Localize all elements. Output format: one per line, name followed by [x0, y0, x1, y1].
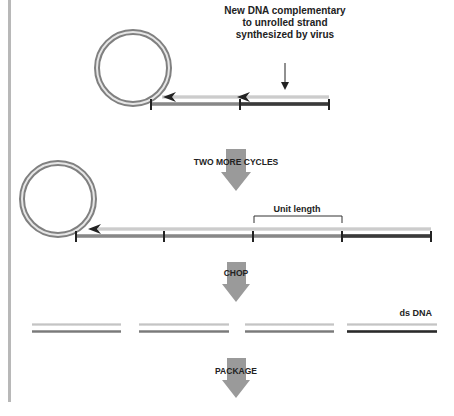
dsdna-fragment-3 — [245, 323, 334, 333]
svg-text:CHOP: CHOP — [224, 268, 249, 278]
pointer-arrow-icon — [281, 63, 289, 90]
annotation-text: New DNA complementary to unrolled strand… — [224, 5, 346, 40]
unrolled-strand-row1-a — [151, 102, 240, 106]
unrolled-strand-row2-b — [342, 234, 431, 238]
unrolled-strand-row1-b — [240, 102, 329, 106]
step-arrow-chop: CHOP — [222, 262, 250, 302]
svg-text:New DNA complementary: New DNA complementary — [224, 5, 346, 16]
plasmid-circle-1 — [97, 32, 169, 104]
rolling-circle-diagram: New DNA complementary to unrolled strand… — [0, 0, 454, 416]
dsdna-fragment-1 — [32, 323, 121, 333]
svg-text:synthesized by virus: synthesized by virus — [236, 29, 335, 40]
ds-dna-label: ds DNA — [399, 308, 432, 318]
new-strand-row2 — [98, 227, 431, 231]
svg-text:TWO MORE CYCLES: TWO MORE CYCLES — [194, 157, 279, 167]
step-arrow-package: PACKAGE — [215, 358, 257, 398]
left-margin-bar — [8, 0, 11, 402]
dsdna-fragment-2 — [139, 323, 229, 333]
unit-length-bracket — [254, 216, 342, 223]
unrolled-strand-row2-a — [76, 234, 342, 238]
svg-text:PACKAGE: PACKAGE — [215, 366, 257, 376]
plasmid-circle-2 — [22, 163, 94, 235]
svg-text:to unrolled strand: to unrolled strand — [243, 17, 328, 28]
dsdna-fragment-4 — [347, 323, 437, 333]
step-arrow-two-more-cycles: TWO MORE CYCLES — [194, 149, 279, 191]
unit-length-label: Unit length — [274, 204, 321, 214]
